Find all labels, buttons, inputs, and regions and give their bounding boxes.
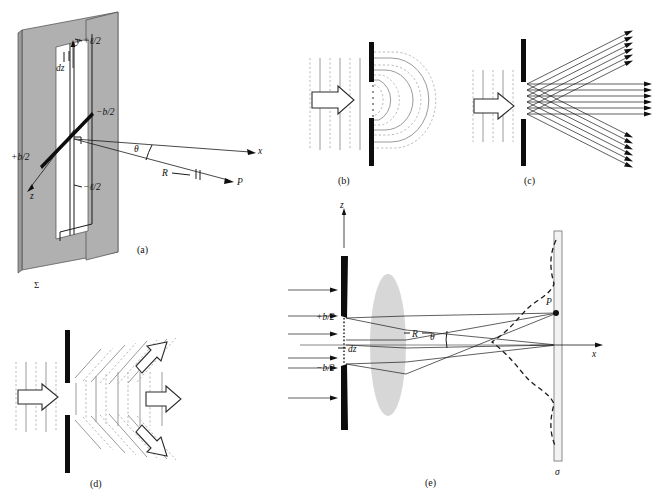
- label-b-minus-e: −b/2: [316, 363, 335, 373]
- panel-b: (b): [310, 42, 436, 187]
- label-theta: θ: [134, 144, 139, 154]
- figure-container: y dz +ℓ/2 −ℓ/2 z +b/2 −b/2 x P θ: [0, 0, 657, 498]
- caption-c: (c): [524, 175, 535, 187]
- axis-x-arrowhead: [247, 149, 256, 155]
- slit-bar-top-e: [341, 256, 348, 318]
- figure-svg: y dz +ℓ/2 −ℓ/2 z +b/2 −b/2 x P θ: [0, 0, 657, 498]
- propagation-arrow-d-axial: [146, 386, 181, 412]
- propagation-arrow-d-upward: [136, 342, 167, 373]
- label-x: x: [257, 146, 263, 156]
- aperture-plane-right: [86, 12, 118, 260]
- point-P-marker-e: [553, 310, 559, 316]
- ray-bundle-downward-c: [527, 84, 633, 168]
- axis-x-arrowhead-e: [595, 343, 603, 348]
- propagation-arrow-b: [312, 86, 354, 114]
- theta-arc-e: [446, 331, 447, 348]
- label-y: y: [75, 36, 81, 46]
- caption-b: (b): [338, 175, 350, 187]
- label-b-minus: −b/2: [96, 107, 115, 117]
- incoming-rays-e: [288, 288, 338, 401]
- label-b-plus-e: +b/2: [316, 312, 335, 322]
- label-sigma: Σ: [34, 280, 39, 290]
- label-z: z: [29, 191, 34, 201]
- label-l-minus: −ℓ/2: [83, 182, 101, 192]
- propagation-arrow-d-downward: [136, 425, 167, 456]
- label-theta-e: θ: [430, 332, 435, 342]
- R-leader: [172, 173, 190, 175]
- propagation-arrow-c: [474, 93, 514, 119]
- label-b-plus: +b/2: [11, 152, 30, 162]
- label-R: R: [161, 168, 168, 178]
- panel-a: y dz +ℓ/2 −ℓ/2 z +b/2 −b/2 x P θ: [11, 12, 263, 290]
- caption-e: (e): [425, 477, 436, 489]
- ray-bundle-upward-c: [527, 31, 633, 115]
- propagation-arrow-d-in: [18, 384, 58, 410]
- panel-d: (d): [16, 330, 181, 490]
- caption-d: (d): [90, 478, 102, 490]
- slit-bar-top-d: [65, 330, 70, 383]
- slit-bar-top-b: [369, 42, 374, 82]
- label-dz: dz: [56, 63, 65, 73]
- caption-a: (a): [137, 244, 148, 256]
- label-z-e: z: [339, 200, 344, 210]
- label-P: P: [236, 177, 243, 187]
- diffracted-wavefronts-b: [374, 52, 436, 148]
- label-x-e: x: [591, 349, 597, 359]
- slit-bar-bottom-c: [521, 119, 526, 166]
- huygens-source-points-b: [372, 85, 374, 117]
- label-R-e: R: [411, 329, 418, 339]
- observation-screen-e: [554, 231, 562, 461]
- label-l-plus: +ℓ/2: [83, 36, 101, 46]
- slit-bar-top-c: [521, 39, 526, 82]
- label-sigma-e: σ: [555, 467, 560, 477]
- panel-e: z +b/2 −b/2 dz: [288, 200, 603, 489]
- slit-bar-bottom-e: [341, 364, 348, 430]
- panel-c: (c): [473, 31, 652, 188]
- slit-bar-bottom-d: [65, 415, 70, 473]
- label-P-e: P: [545, 297, 552, 307]
- slit-bar-bottom-b: [369, 118, 374, 166]
- theta-arc: [146, 145, 152, 160]
- ray-R-arrowhead: [224, 178, 234, 184]
